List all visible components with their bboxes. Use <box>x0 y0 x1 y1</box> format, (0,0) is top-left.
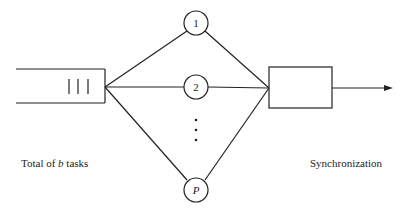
fork-edges <box>105 31 187 180</box>
synchronization-label: Synchronization <box>310 157 383 169</box>
join-edges <box>205 31 269 180</box>
queue-label: Total of b tasks <box>21 157 88 169</box>
server-2-label: 2 <box>193 81 199 93</box>
server-p-label: P <box>192 184 200 196</box>
synchronization-box <box>269 67 332 108</box>
ellipsis-dots <box>195 119 198 142</box>
server-1-label: 1 <box>193 17 199 29</box>
arrowhead-icon <box>384 85 393 91</box>
task-queue <box>16 69 105 103</box>
fork-join-diagram: 1 2 P Total of b tasks Synchronization <box>0 0 406 216</box>
